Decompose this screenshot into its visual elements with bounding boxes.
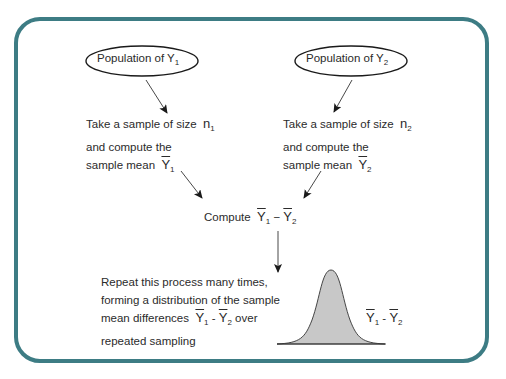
population-2-label: Population of Y2	[306, 52, 388, 67]
arrow-pop1-to-sample1	[146, 80, 167, 113]
arrow-pop2-to-sample2	[334, 80, 352, 112]
compute-text: Compute Y1 − Y2	[204, 208, 296, 231]
population-1-label: Population of Y1	[97, 52, 179, 67]
curve-label: Y1 - Y2	[366, 309, 403, 332]
sample-1-text: Take a sample of size n1 and compute the…	[86, 115, 215, 179]
sample-2-text: Take a sample of size n2 and compute the…	[283, 115, 412, 179]
distribution-curve	[277, 270, 385, 344]
repeat-text: Repeat this process many times, forming …	[101, 273, 280, 350]
